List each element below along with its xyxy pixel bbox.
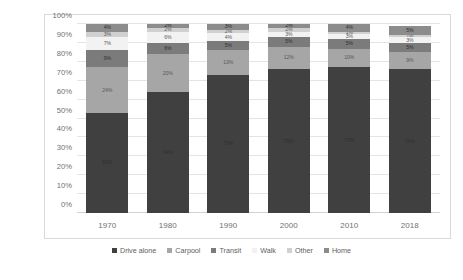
bar-segment-value-label: 5%: [406, 45, 413, 50]
bar-segment[interactable]: 24%: [86, 67, 128, 112]
bar-segment[interactable]: 1%: [328, 32, 370, 34]
bar-segment-value-label: 77%: [344, 138, 354, 143]
bar-segment[interactable]: 4%: [86, 24, 128, 32]
legend-item[interactable]: Transit: [211, 246, 241, 255]
bar-segment[interactable]: 10%: [328, 49, 370, 68]
bar-segment-value-label: 5%: [225, 43, 232, 48]
bar-segment-value-label: 2%: [225, 30, 232, 34]
bar-segment[interactable]: 2%: [268, 24, 310, 28]
bar-segment-value-label: 12%: [284, 55, 294, 60]
chart-legend: Drive aloneCarpoolTransitWalkOtherHome: [0, 246, 463, 255]
x-axis-tick-label: 2018: [372, 221, 447, 230]
bar-segment[interactable]: 6%: [147, 43, 189, 54]
bar-group[interactable]: 64%20%6%6%2%2%1980: [147, 24, 189, 213]
legend-label: Other: [295, 246, 313, 255]
y-axis-tick-label: 10%: [57, 181, 72, 190]
bar-segment-value-label: 20%: [163, 71, 173, 76]
bar-segment[interactable]: 3%: [268, 32, 310, 38]
y-axis-tick-label: 20%: [57, 162, 72, 171]
bar-segment[interactable]: 9%: [86, 50, 128, 67]
bar-segment-value-label: 53%: [102, 160, 112, 165]
legend-label: Carpool: [175, 246, 200, 255]
bar-segment[interactable]: 64%: [147, 92, 189, 213]
bar-segment-value-label: 5%: [406, 28, 413, 33]
bar-segment[interactable]: 5%: [389, 26, 431, 35]
y-axis-tick-label: 90%: [57, 29, 72, 38]
bar-segment-value-label: 9%: [104, 56, 111, 61]
bar-segment-value-label: 76%: [405, 139, 415, 144]
bar-segment-value-label: 1%: [346, 32, 353, 34]
bar-stack: 77%10%5%3%1%4%: [328, 24, 370, 213]
bar-segment[interactable]: 5%: [389, 43, 431, 52]
bar-segment[interactable]: 7%: [86, 37, 128, 50]
bar-segment[interactable]: 76%: [389, 69, 431, 213]
legend-item[interactable]: Home: [324, 246, 351, 255]
bar-segment[interactable]: 76%: [268, 69, 310, 213]
y-axis-tick-label: 60%: [57, 86, 72, 95]
bar-segment[interactable]: 3%: [389, 37, 431, 43]
plot-frame: Percent of Workers 0%10%20%30%40%50%60%7…: [44, 14, 451, 239]
bar-stack: 76%12%5%3%2%2%: [268, 24, 310, 213]
bar-segment[interactable]: 2%: [147, 28, 189, 32]
bar-segment-value-label: 76%: [284, 139, 294, 144]
bar-segment[interactable]: 4%: [328, 24, 370, 32]
legend-label: Drive alone: [120, 246, 156, 255]
bar-segment-value-label: 6%: [164, 35, 171, 40]
bar-segment[interactable]: 3%: [86, 32, 128, 38]
bar-segment[interactable]: 5%: [207, 41, 249, 50]
bar-stack: 53%24%9%7%3%4%: [86, 24, 128, 213]
bar-segment[interactable]: 12%: [268, 47, 310, 70]
bar-segment[interactable]: 53%: [86, 113, 128, 213]
bar-segment[interactable]: 2%: [147, 24, 189, 28]
bar-segment-value-label: 4%: [346, 25, 353, 30]
bar-segment[interactable]: 1%: [389, 35, 431, 37]
bar-group[interactable]: 76%12%5%3%2%2%2000: [268, 24, 310, 213]
commute-mode-share-chart: Percent of Workers 0%10%20%30%40%50%60%7…: [0, 0, 463, 280]
y-axis-tick-label: 100%: [53, 11, 72, 20]
bar-group[interactable]: 76%9%5%3%1%5%2018: [389, 24, 431, 213]
legend-label: Walk: [260, 246, 276, 255]
y-axis-tick-label: 40%: [57, 124, 72, 133]
y-axis-tick-label: 70%: [57, 67, 72, 76]
bar-segment[interactable]: 4%: [207, 33, 249, 41]
bar-segment-value-label: 4%: [225, 35, 232, 40]
legend-item[interactable]: Carpool: [167, 246, 200, 255]
bar-segment[interactable]: 9%: [389, 52, 431, 69]
bar-segment[interactable]: 6%: [147, 32, 189, 43]
legend-swatch-icon: [167, 248, 172, 253]
legend-label: Home: [332, 246, 351, 255]
legend-swatch-icon: [112, 248, 117, 253]
y-axis-tick-label: 80%: [57, 48, 72, 57]
bar-segment-value-label: 5%: [346, 41, 353, 46]
bar-segment[interactable]: 20%: [147, 54, 189, 92]
bar-segment-value-label: 73%: [223, 141, 233, 146]
bar-segment[interactable]: 2%: [268, 28, 310, 32]
legend-item[interactable]: Drive alone: [112, 246, 156, 255]
bar-segment-value-label: 10%: [344, 55, 354, 60]
bar-segment-value-label: 64%: [163, 150, 173, 155]
legend-item[interactable]: Walk: [252, 246, 276, 255]
y-axis-tick-label: 0%: [61, 200, 72, 209]
bar-segment[interactable]: 77%: [328, 67, 370, 213]
bar-stack: 76%9%5%3%1%5%: [389, 24, 431, 213]
bar-group[interactable]: 53%24%9%7%3%4%1970: [86, 24, 128, 213]
bar-group[interactable]: 73%13%5%4%2%3%1990: [207, 24, 249, 213]
bar-stack: 73%13%5%4%2%3%: [207, 24, 249, 213]
legend-item[interactable]: Other: [287, 246, 313, 255]
legend-swatch-icon: [211, 248, 216, 253]
bar-segment-value-label: 9%: [406, 58, 413, 63]
bar-segment-value-label: 1%: [406, 35, 413, 37]
legend-label: Transit: [219, 246, 241, 255]
bar-segment[interactable]: 5%: [268, 37, 310, 46]
bar-segment[interactable]: 3%: [328, 34, 370, 40]
legend-swatch-icon: [252, 248, 257, 253]
bar-segment-value-label: 4%: [104, 25, 111, 30]
bar-segment[interactable]: 2%: [207, 30, 249, 34]
bar-segment[interactable]: 5%: [328, 39, 370, 48]
bar-segment[interactable]: 13%: [207, 50, 249, 75]
bar-segment[interactable]: 3%: [207, 24, 249, 30]
bar-group[interactable]: 77%10%5%3%1%4%2010: [328, 24, 370, 213]
bar-segment-value-label: 7%: [104, 41, 111, 46]
legend-swatch-icon: [287, 248, 292, 253]
bar-segment[interactable]: 73%: [207, 75, 249, 213]
